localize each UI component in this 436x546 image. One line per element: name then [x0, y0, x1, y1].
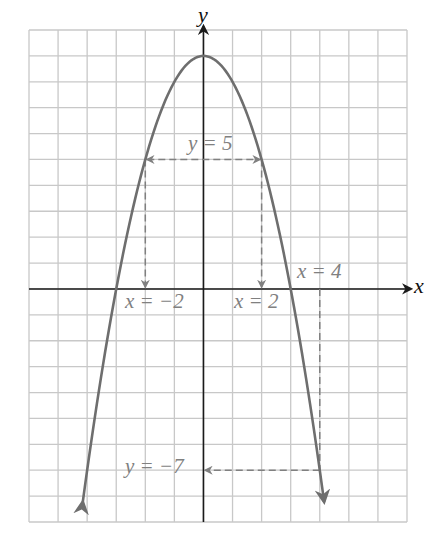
label-x-equals-4: x = 4	[296, 259, 342, 283]
parabola-plot: y x y = 5 x = −2 x = 2 x = 4 y = −7	[0, 0, 436, 546]
label-y-equals-neg7: y = −7	[123, 454, 185, 478]
label-x-equals-2: x = 2	[233, 289, 279, 313]
label-y-equals-5: y = 5	[186, 131, 233, 155]
label-x-equals-neg2: x = −2	[124, 289, 184, 313]
y-axis-label: y	[196, 2, 208, 27]
axes	[29, 26, 411, 522]
x-axis-label: x	[413, 273, 424, 298]
grid	[29, 30, 407, 522]
